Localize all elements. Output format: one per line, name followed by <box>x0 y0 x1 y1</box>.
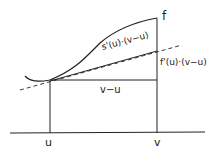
label-v: v <box>154 137 161 148</box>
x-axis <box>10 132 205 133</box>
label-v-minus-u: v−u <box>100 85 121 95</box>
curve-f <box>25 18 157 81</box>
secant-segment <box>50 51 157 81</box>
diagram-canvas: f s'(u)·(v−u) f'(u)·(v−u) v−u u v <box>0 0 213 153</box>
label-u: u <box>45 137 52 148</box>
label-f: f <box>162 10 166 22</box>
label-f-term: f'(u)·(v−u) <box>160 58 207 67</box>
diagram-graphics <box>0 0 213 153</box>
